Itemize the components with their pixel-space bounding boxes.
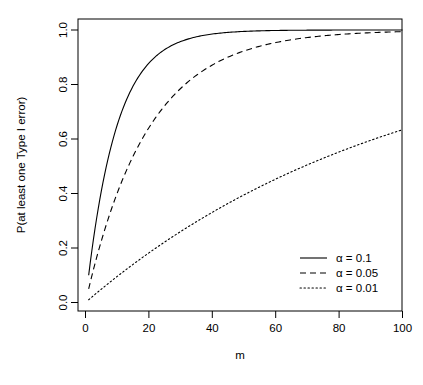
legend-label-alpha-0.05: α = 0.05 xyxy=(336,267,378,279)
x-tick-label-0: 0 xyxy=(82,322,88,334)
y-axis-title: P(at least one Type I error) xyxy=(15,97,27,234)
y-axis-ticks xyxy=(71,30,78,303)
x-tick-label-20: 20 xyxy=(143,322,156,334)
legend-label-alpha-0.01: α = 0.01 xyxy=(336,282,378,294)
y-tick-labels: 0.0 0.2 0.4 0.6 0.8 1.0 xyxy=(57,22,69,311)
y-tick-label-0.4: 0.4 xyxy=(57,185,69,202)
x-tick-label-60: 60 xyxy=(269,322,282,334)
legend-label-alpha-0.1: α = 0.1 xyxy=(336,252,372,264)
legend: α = 0.1 α = 0.05 α = 0.01 xyxy=(300,252,378,294)
x-tick-label-100: 100 xyxy=(393,322,412,334)
chart-figure: 0 20 40 60 80 100 0.0 0.2 0.4 0.6 0.8 1.… xyxy=(0,0,423,385)
x-axis-title: m xyxy=(235,349,245,361)
x-axis-ticks xyxy=(86,311,403,318)
y-tick-label-1.0: 1.0 xyxy=(57,22,69,38)
y-tick-label-0.6: 0.6 xyxy=(57,131,69,147)
y-tick-label-0.8: 0.8 xyxy=(57,77,69,93)
x-tick-label-40: 40 xyxy=(206,322,219,334)
x-tick-label-80: 80 xyxy=(333,322,346,334)
y-tick-label-0.0: 0.0 xyxy=(57,295,69,311)
x-tick-labels: 0 20 40 60 80 100 xyxy=(82,322,412,334)
y-tick-label-0.2: 0.2 xyxy=(57,240,69,256)
line-chart: 0 20 40 60 80 100 0.0 0.2 0.4 0.6 0.8 1.… xyxy=(0,0,423,385)
